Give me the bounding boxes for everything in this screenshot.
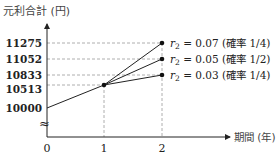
x-tick: 0 <box>44 142 51 155</box>
x-axis-label: 期間 (年) <box>234 131 276 143</box>
branch-label-003: r2 = 0.03 (確率 1/4) <box>170 69 270 83</box>
y-axis-label: 元利合計 (円) <box>3 4 70 18</box>
series-lines <box>47 43 162 108</box>
reference-lines <box>47 43 162 137</box>
y-tick: 11052 <box>5 53 42 65</box>
branch-label-007: r2 = 0.07 (確率 1/4) <box>170 37 270 51</box>
tree-diagram: 元利合計 (円) 11275 11052 10833 10513 10000 ≈… <box>0 0 278 164</box>
y-tick: 11275 <box>5 37 42 49</box>
y-tick: 10513 <box>5 83 42 95</box>
branch-label-005: r2 = 0.05 (確率 1/2) <box>170 53 270 67</box>
x-tick: 1 <box>101 142 108 155</box>
y-tick: 10000 <box>5 102 42 114</box>
x-tick: 2 <box>159 142 166 155</box>
y-tick: 10833 <box>5 69 42 81</box>
axis-break-icon: ≈ <box>39 116 50 131</box>
